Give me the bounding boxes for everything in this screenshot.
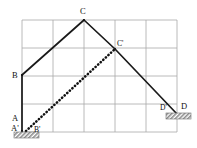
label-Cp: C' — [117, 39, 124, 48]
vertex-Cp — [114, 48, 116, 50]
vertex-B — [21, 74, 23, 76]
canvas-background — [0, 0, 197, 148]
mechanism-figure: AA'BB'CC'D'D — [0, 0, 197, 148]
label-Dp: D' — [160, 103, 167, 112]
mechanism-drawing-canvas: AA'BB'CC'D'D — [0, 0, 197, 148]
label-A: A — [12, 113, 19, 123]
label-Ap: A' — [11, 123, 19, 133]
support-hatch-right — [166, 113, 191, 119]
vertex-C — [83, 19, 85, 21]
label-D: D — [181, 101, 187, 111]
label-C: C — [80, 6, 86, 16]
label-Bp: B' — [34, 125, 41, 134]
label-B: B — [12, 70, 18, 80]
